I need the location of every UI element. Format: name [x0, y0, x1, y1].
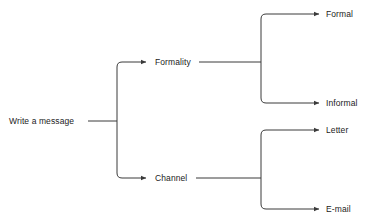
- diagram-canvas: Write a message Formality Channel Formal…: [0, 0, 373, 224]
- edge-channel-to-email: [261, 178, 319, 209]
- node-formal: Formal: [326, 9, 353, 19]
- node-channel: Channel: [155, 173, 187, 183]
- diagram-connectors: [0, 0, 373, 224]
- node-informal: Informal: [326, 98, 358, 108]
- node-root: Write a message: [9, 116, 74, 126]
- node-formality: Formality: [155, 57, 191, 67]
- edge-formality-to-formal: [261, 14, 319, 62]
- edge-formality-to-informal: [261, 62, 319, 103]
- node-email: E-mail: [326, 204, 351, 214]
- edge-channel-to-letter: [261, 130, 319, 178]
- node-letter: Letter: [326, 125, 348, 135]
- edge-root-to-formality: [117, 62, 146, 121]
- edge-root-to-channel: [117, 121, 146, 178]
